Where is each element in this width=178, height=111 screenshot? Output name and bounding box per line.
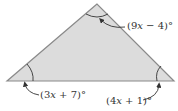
right-angle-label: (4x + 1)° bbox=[106, 95, 152, 106]
left-pointer-arrow bbox=[25, 84, 39, 95]
left-angle-label: (3x + 7)° bbox=[40, 89, 86, 100]
apex-angle-label: (9x − 4)° bbox=[127, 20, 173, 31]
triangle-diagram: (9x − 4)° (3x + 7)° (4x + 1)° bbox=[0, 0, 178, 111]
triangle-figure: (9x − 4)° (3x + 7)° (4x + 1)° bbox=[0, 0, 178, 111]
